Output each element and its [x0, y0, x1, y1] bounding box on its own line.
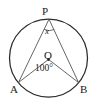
center-label-O: O	[44, 50, 52, 61]
central-angle-label-100: 100°	[35, 64, 53, 74]
vertex-label-A: A	[10, 84, 18, 95]
circle-geometry-figure: P A B O x 100°	[0, 0, 98, 107]
vertex-label-P: P	[42, 6, 48, 17]
vertex-label-B: B	[80, 84, 87, 95]
inscribed-angle-label-x: x	[45, 27, 49, 36]
